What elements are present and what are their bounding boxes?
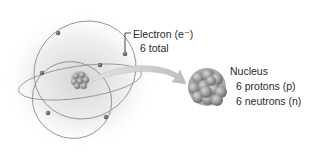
- electron-dot: [56, 31, 61, 36]
- electron-label-title: Electron (e⁻): [133, 28, 193, 40]
- electron-dot: [104, 115, 109, 120]
- electron-dot: [40, 71, 45, 76]
- nucleus-label-neutrons: 6 neutrons (n): [236, 95, 301, 107]
- carbon-atom-diagram: Electron (e⁻) 6 total Nucleus 6 protons …: [0, 0, 316, 156]
- electron-dot: [46, 111, 51, 116]
- electron-label-count: 6 total: [140, 42, 169, 54]
- electron-dot: [98, 63, 103, 68]
- nucleus-label-protons: 6 protons (p): [236, 80, 296, 92]
- nucleus-label-title: Nucleus: [230, 65, 268, 77]
- electron-dot: [123, 52, 128, 57]
- atom-illustration: [0, 0, 316, 156]
- small-nucleus-icon: [71, 71, 89, 89]
- large-nucleus-icon: [188, 68, 227, 106]
